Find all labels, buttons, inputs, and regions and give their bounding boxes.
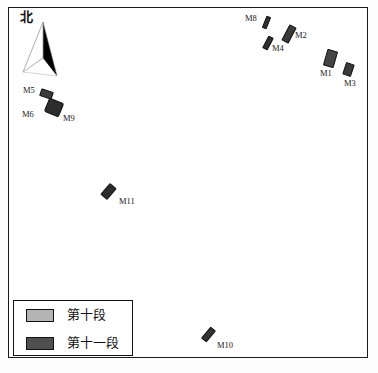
legend-swatch-phase-11 xyxy=(26,337,54,350)
legend-label-phase-11: 第十一段 xyxy=(67,336,119,350)
tomb-label-m9: M9 xyxy=(63,114,75,123)
legend-label-phase-10: 第十段 xyxy=(67,308,106,322)
tomb-label-m6: M6 xyxy=(22,110,34,119)
legend-swatch-phase-10 xyxy=(26,309,54,322)
site-distribution-map: 北 M8M2M4M1M3M5M9M6M11M10 第十段 第十一段 xyxy=(0,0,378,373)
tomb-label-m10: M10 xyxy=(217,341,233,350)
legend-item-phase-10: 第十段 xyxy=(14,301,134,329)
tomb-label-m1: M1 xyxy=(320,69,332,78)
tomb-label-m2: M2 xyxy=(295,31,307,40)
tomb-label-m3: M3 xyxy=(344,79,356,88)
legend: 第十段 第十一段 xyxy=(13,300,133,356)
north-arrow-icon xyxy=(17,10,81,86)
tomb-label-m5: M5 xyxy=(23,86,35,95)
tomb-label-m8: M8 xyxy=(245,14,257,23)
tomb-label-m11: M11 xyxy=(119,197,135,206)
tomb-label-m4: M4 xyxy=(272,44,284,53)
legend-item-phase-11: 第十一段 xyxy=(14,329,134,357)
